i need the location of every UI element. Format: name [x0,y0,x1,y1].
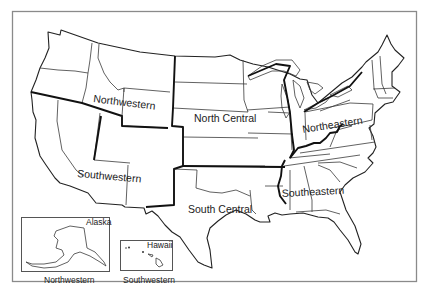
alaska-label: Alaska [86,217,112,227]
hawaii-region-label: Southwestern [123,275,175,285]
us-regions-map: Northwestern Southwestern North Central … [0,0,428,296]
map-frame [13,12,417,282]
alaska-inset: Alaska Northwestern [22,217,112,285]
label-south-central: South Central [188,203,252,215]
label-southwestern: Southwestern [77,167,142,185]
hawaii-label: Hawaii [147,240,173,250]
hawaii-inset: Hawaii Southwestern [121,240,176,285]
us-outline [31,30,404,268]
label-southeastern: Southeastern [281,184,344,199]
label-north-central: North Central [194,112,256,124]
alaska-region-label: Northwestern [44,275,95,285]
